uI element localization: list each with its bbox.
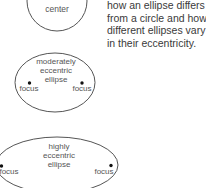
moderate-focus-right-label: focus: [72, 84, 91, 93]
moderate-label-line-3: ellipse: [45, 75, 68, 84]
circle-figure: center: [27, 0, 87, 31]
moderate-focus-left-label: focus: [19, 84, 38, 93]
high-label-line-2: eccentric: [43, 151, 75, 160]
caption-line-2: from a circle and how: [107, 12, 206, 25]
moderate-label-line-1: moderately: [36, 57, 76, 66]
caption-text: how an ellipse differs from a circle and…: [107, 0, 206, 49]
caption-line-1: how an ellipse differs: [107, 0, 206, 12]
high-ellipse-figure: highly eccentric ellipse focus focus: [0, 137, 118, 188]
high-focus-left-label: focus: [0, 167, 19, 176]
circle-center-label: center: [45, 4, 69, 14]
moderate-label-line-2: eccentric: [40, 66, 72, 75]
high-focus-right-label: focus: [94, 167, 113, 176]
moderate-ellipse-figure: moderately eccentric ellipse focus focus: [15, 53, 95, 112]
high-label-line-1: highly: [49, 142, 70, 151]
caption-line-4: in their eccentricity.: [107, 37, 206, 50]
caption-line-3: different ellipses vary: [107, 24, 206, 37]
high-label-line-3: ellipse: [48, 160, 71, 169]
